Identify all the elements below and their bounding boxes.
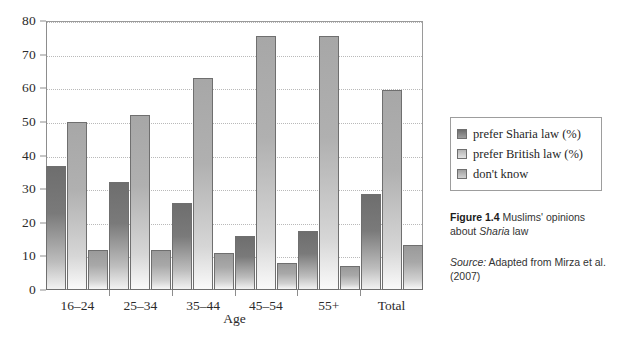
- legend-item-label: don't know: [473, 168, 528, 181]
- y-tick-label: 40: [22, 148, 36, 164]
- bar[interactable]: [151, 250, 171, 290]
- figure-page: 01020304050607080 16–2425–3435–4445–5455…: [0, 0, 626, 337]
- x-tick-mark: [235, 290, 236, 296]
- figure-caption-italic-term: Sharia: [479, 225, 509, 237]
- bar[interactable]: [382, 90, 402, 290]
- bar-group: [298, 21, 360, 290]
- bar[interactable]: [340, 266, 360, 290]
- bar-group: [172, 21, 234, 290]
- bar[interactable]: [130, 115, 150, 290]
- y-tick-label: 10: [22, 248, 36, 264]
- x-tick-mark: [360, 290, 361, 296]
- bar[interactable]: [109, 182, 129, 290]
- bar[interactable]: [277, 263, 297, 290]
- y-tick-label: 80: [22, 13, 36, 29]
- y-axis: 01020304050607080: [0, 0, 46, 337]
- y-tick-label: 70: [22, 47, 36, 63]
- caption-block: Figure 1.4 Muslims' opinions about Shari…: [450, 210, 612, 284]
- bar-group: [46, 21, 108, 290]
- legend-swatch-icon: [457, 129, 467, 139]
- legend-item-label: prefer Sharia law (%): [473, 128, 581, 141]
- bar[interactable]: [193, 78, 213, 290]
- bars-layer: [46, 21, 423, 290]
- legend-item-label: prefer British law (%): [473, 148, 583, 161]
- y-tick-label: 50: [22, 114, 36, 130]
- figure-caption-text-2: law: [510, 225, 529, 237]
- bar-group: [361, 21, 423, 290]
- bar[interactable]: [214, 253, 234, 290]
- bar[interactable]: [235, 236, 255, 290]
- figure-number: Figure 1.4: [450, 211, 500, 223]
- source-label: Source:: [450, 256, 486, 268]
- bar-chart: 01020304050607080 16–2425–3435–4445–5455…: [0, 0, 438, 337]
- x-tick-mark: [109, 290, 110, 296]
- y-tick-label: 0: [29, 282, 36, 298]
- bar-group: [109, 21, 171, 290]
- x-tick-mark: [297, 290, 298, 296]
- bar[interactable]: [172, 203, 192, 290]
- legend-swatch-icon: [457, 149, 467, 159]
- source-line: Source: Adapted from Mirza et al. (2007): [450, 255, 612, 284]
- legend-swatch-icon: [457, 169, 467, 179]
- bar[interactable]: [256, 36, 276, 290]
- bar[interactable]: [298, 231, 318, 290]
- bar-group: [235, 21, 297, 290]
- bar[interactable]: [361, 194, 381, 290]
- bar[interactable]: [319, 36, 339, 290]
- bar[interactable]: [403, 245, 423, 290]
- x-tick-mark: [172, 290, 173, 296]
- y-tick-label: 30: [22, 181, 36, 197]
- legend-item[interactable]: prefer British law (%): [457, 144, 594, 164]
- x-axis-title: Age: [46, 311, 423, 327]
- y-tick-label: 60: [22, 80, 36, 96]
- legend-item[interactable]: prefer Sharia law (%): [457, 124, 594, 144]
- bar[interactable]: [46, 166, 66, 290]
- bar[interactable]: [88, 250, 108, 290]
- legend-item[interactable]: don't know: [457, 164, 594, 184]
- bar[interactable]: [67, 122, 87, 290]
- chart-legend: prefer Sharia law (%)prefer British law …: [450, 117, 602, 191]
- figure-caption: Figure 1.4 Muslims' opinions about Shari…: [450, 210, 612, 239]
- y-tick-label: 20: [22, 215, 36, 231]
